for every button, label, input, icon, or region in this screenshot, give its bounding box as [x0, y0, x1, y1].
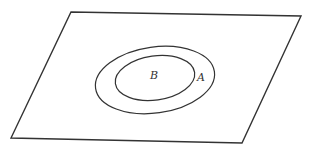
- set-a-label: A: [197, 71, 205, 84]
- set-b-label: B: [150, 69, 158, 82]
- venn-diagram: A B: [0, 0, 309, 152]
